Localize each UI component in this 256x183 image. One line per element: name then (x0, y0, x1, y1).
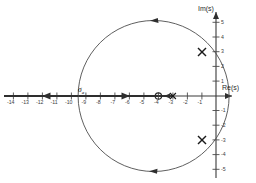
real-locus-arrow-inner (164, 93, 170, 98)
centroid-label: σa (78, 79, 84, 95)
root-locus-figure: -14 -13 -12 -11 -10 -9 -8 -7 -6 -5 -4 -3… (0, 0, 256, 183)
y-tick-label: 2 (221, 63, 224, 69)
imaginary-axis-arrowhead (213, 12, 219, 19)
locus-arrowhead-top (150, 18, 159, 23)
x-tick-label: -7 (111, 99, 116, 105)
y-tick-label: -2 (221, 122, 226, 128)
y-tick-label: -3 (221, 137, 226, 143)
x-tick-label: -2 (183, 99, 188, 105)
pole-marker-upper (198, 48, 206, 56)
x-tick-label: -4 (154, 99, 159, 105)
y-tick-label: 4 (221, 34, 224, 40)
pole-marker-lower (198, 136, 206, 144)
x-tick-label: -1 (198, 99, 203, 105)
x-tick-label: -12 (36, 99, 44, 105)
axis-group (4, 12, 232, 178)
locus-arrowhead-bottom (149, 169, 158, 174)
y-tick-label: 1 (221, 78, 224, 84)
real-axis-locus (4, 93, 173, 100)
x-tick-label: -9 (82, 99, 87, 105)
x-tick-label: -8 (96, 99, 101, 105)
x-tick-label: -10 (65, 99, 73, 105)
real-axis-arrowhead (225, 93, 232, 99)
imaginary-axis-title: Im(s) (198, 5, 214, 12)
x-tick-label: -3 (169, 99, 174, 105)
plot-canvas (0, 0, 256, 183)
y-tick-label: -1 (221, 107, 226, 113)
y-tick-label: -5 (221, 166, 226, 172)
x-tick-label: -14 (7, 99, 15, 105)
y-tick-label: 5 (221, 19, 224, 25)
x-tick-label: -13 (22, 99, 30, 105)
centroid-subscript: a (82, 90, 85, 95)
real-axis-title: Re(s) (222, 84, 239, 91)
y-tick-label: -4 (221, 151, 226, 157)
x-tick-label: -5 (140, 99, 145, 105)
y-tick-label: 3 (221, 48, 224, 54)
x-tick-label: -6 (125, 99, 130, 105)
x-tick-label: -11 (51, 99, 58, 105)
